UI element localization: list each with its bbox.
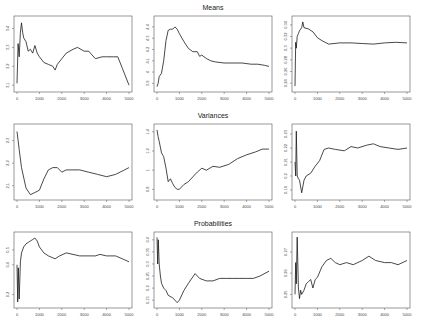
line-chart: 0100020003000400050000.250.260.27 (278, 216, 418, 321)
chart-title: Probabilities (194, 220, 233, 227)
y-tick-label: 3.4 (5, 25, 10, 31)
line-chart: 0100020003000400050003.13.23.33.4 (0, 0, 140, 108)
x-tick-label: 1000 (35, 96, 45, 101)
line-chart: 0100020003000400050000.190.20.210.220.23 (278, 108, 418, 216)
x-tick-label: 0 (16, 312, 19, 317)
y-tick-label: 3.2 (5, 63, 10, 69)
y-tick-label: 3.1 (5, 82, 10, 88)
y-tick-label: 3.9 (145, 80, 150, 86)
y-tick-label: 0.25 (283, 290, 288, 299)
series-line (295, 237, 407, 299)
y-tick-label: 0.4 (145, 236, 150, 242)
line-chart: 0100020003000400050000.20.40.5 (0, 216, 140, 321)
x-tick-label: 5000 (403, 96, 413, 101)
x-tick-label: 4000 (380, 312, 390, 317)
y-tick-label: 4.1 (145, 57, 150, 63)
plot-frame (292, 124, 410, 200)
x-tick-label: 3000 (358, 312, 368, 317)
y-tick-label: 0.28 (283, 55, 288, 64)
line-chart: 0100020003000400050000.240.260.280.30.32… (278, 0, 418, 108)
x-tick-label: 4000 (380, 96, 390, 101)
y-tick-label: 1.4 (145, 128, 150, 134)
series-line (295, 131, 407, 193)
plot-frame (154, 124, 272, 200)
plot-frame (14, 232, 132, 308)
x-tick-label: 4000 (242, 96, 252, 101)
y-tick-label: 0.2 (283, 172, 288, 178)
y-tick-label: 0.32 (283, 32, 288, 41)
y-tick-label: 0.8 (145, 186, 150, 192)
x-tick-label: 2000 (57, 96, 67, 101)
y-tick-label: 2.3 (5, 137, 10, 143)
y-tick-label: 0.15 (145, 296, 150, 305)
x-tick-label: 0 (156, 312, 159, 317)
x-tick-label: 3000 (80, 96, 90, 101)
x-tick-label: 5000 (265, 312, 275, 317)
x-tick-label: 2000 (335, 96, 345, 101)
x-tick-label: 0 (156, 96, 159, 101)
x-tick-label: 5000 (265, 96, 275, 101)
series-line (157, 237, 269, 302)
y-tick-label: 0.21 (283, 157, 288, 166)
plot-frame (292, 16, 410, 92)
y-tick-label: 4.3 (145, 35, 150, 41)
x-tick-label: 5000 (403, 204, 413, 209)
x-tick-label: 2000 (57, 204, 67, 209)
y-tick-label: 0.19 (283, 185, 288, 194)
x-tick-label: 3000 (80, 312, 90, 317)
y-tick-label: 0.26 (283, 67, 288, 76)
x-tick-label: 3000 (220, 312, 230, 317)
plot-frame (292, 232, 410, 308)
x-tick-label: 1000 (35, 204, 45, 209)
chart-panel: 0100020003000400050002.12.22.3 (0, 108, 140, 216)
chart-panel: Variances0100020003000400050000.811.21.4 (140, 108, 280, 216)
plot-frame (154, 16, 272, 92)
x-tick-label: 1000 (313, 204, 323, 209)
x-tick-label: 0 (294, 96, 297, 101)
x-tick-label: 4000 (242, 312, 252, 317)
series-line (157, 27, 269, 87)
y-tick-label: 3.3 (5, 44, 10, 50)
series-line (17, 132, 129, 195)
y-tick-label: 0.25 (145, 271, 150, 280)
x-tick-label: 2000 (197, 96, 207, 101)
chart-panel: 0100020003000400050000.190.20.210.220.23 (278, 108, 418, 216)
x-tick-label: 3000 (220, 96, 230, 101)
x-tick-label: 2000 (57, 312, 67, 317)
x-tick-label: 4000 (380, 204, 390, 209)
series-line (295, 22, 407, 86)
y-tick-label: 0.5 (5, 246, 10, 252)
x-tick-label: 5000 (403, 312, 413, 317)
x-tick-label: 5000 (125, 96, 135, 101)
x-tick-label: 2000 (197, 312, 207, 317)
x-tick-label: 5000 (125, 312, 135, 317)
chart-title: Means (202, 4, 224, 11)
x-tick-label: 3000 (80, 204, 90, 209)
chart-panel: 0100020003000400050000.240.260.280.30.32… (278, 0, 418, 108)
x-tick-label: 4000 (242, 204, 252, 209)
y-tick-label: 0.35 (145, 247, 150, 256)
chart-panel: 0100020003000400050000.250.260.27 (278, 216, 418, 321)
x-tick-label: 1000 (313, 96, 323, 101)
line-chart: 0100020003000400050002.12.22.3 (0, 108, 140, 216)
plot-frame (14, 124, 132, 200)
x-tick-label: 3000 (358, 96, 368, 101)
plot-frame (14, 16, 132, 92)
x-tick-label: 1000 (175, 204, 185, 209)
y-tick-label: 1 (145, 168, 150, 171)
x-tick-label: 0 (16, 204, 19, 209)
x-tick-label: 1000 (313, 312, 323, 317)
series-line (17, 238, 129, 302)
y-tick-label: 0.27 (283, 247, 288, 256)
y-tick-label: 4.2 (145, 46, 150, 52)
x-tick-label: 0 (294, 312, 297, 317)
y-tick-label: 0.26 (283, 269, 288, 278)
y-tick-label: 0.3 (145, 260, 150, 266)
x-tick-label: 4000 (102, 96, 112, 101)
series-line (157, 130, 269, 189)
y-tick-label: 0.3 (283, 45, 288, 51)
y-tick-label: 2.2 (5, 160, 10, 166)
x-tick-label: 4000 (102, 204, 112, 209)
x-tick-label: 2000 (335, 204, 345, 209)
line-chart: Probabilities0100020003000400050000.150.… (140, 216, 280, 321)
